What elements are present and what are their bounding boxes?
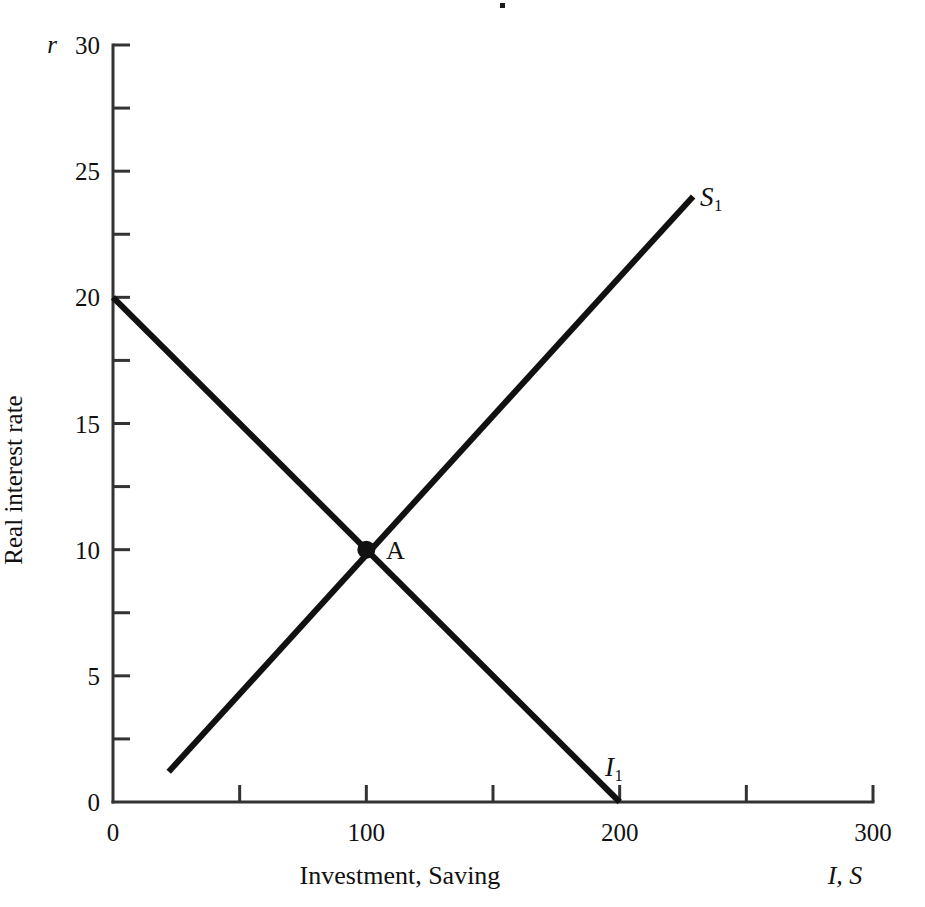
economics-loanable-funds-chart: 0510152025300100200300 r Real interest r… <box>0 0 925 907</box>
curve-label-subscript: 1 <box>714 196 722 215</box>
y-tick-label: 20 <box>75 285 100 310</box>
y-tick-label: 30 <box>75 33 100 58</box>
curve-s1 <box>169 196 693 771</box>
y-tick-label: 5 <box>88 663 101 688</box>
equilibrium-point-a-marker <box>357 541 375 559</box>
x-tick-label: 300 <box>854 820 892 845</box>
curve-label-letter: S <box>700 182 714 212</box>
curve-label-letter: I <box>605 752 614 782</box>
y-tick-label: 0 <box>88 790 101 815</box>
y-tick-label: 15 <box>75 411 100 436</box>
y-axis-title: Real interest rate <box>0 395 28 564</box>
y-axis-symbol: r <box>47 31 57 59</box>
markers-group <box>357 541 375 559</box>
curves-group <box>113 196 693 802</box>
y-tick-label: 10 <box>75 537 100 562</box>
y-tick-label: 25 <box>75 159 100 184</box>
x-axis-title: Investment, Saving <box>300 861 501 891</box>
axes-group <box>113 45 873 802</box>
curve-label-subscript: 1 <box>615 766 623 785</box>
x-axis-symbol: I, S <box>828 861 863 891</box>
curve-label-s1: S1 <box>700 182 722 216</box>
equilibrium-point-label-a: A <box>386 536 405 566</box>
x-tick-label: 100 <box>348 820 386 845</box>
plot-area-svg <box>0 0 925 907</box>
curve-label-i1: I1 <box>605 752 623 786</box>
x-tick-label: 200 <box>601 820 639 845</box>
x-tick-label: 0 <box>107 820 120 845</box>
